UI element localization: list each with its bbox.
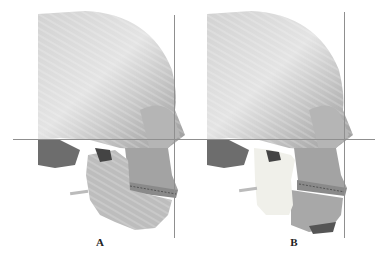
skull-render-b bbox=[191, 0, 382, 263]
panel-label-b: B bbox=[284, 236, 304, 248]
panel-label-a: A bbox=[90, 236, 110, 248]
panel-a: A bbox=[0, 0, 191, 263]
panel-b: B bbox=[191, 0, 382, 263]
skull-render-a bbox=[0, 0, 191, 263]
